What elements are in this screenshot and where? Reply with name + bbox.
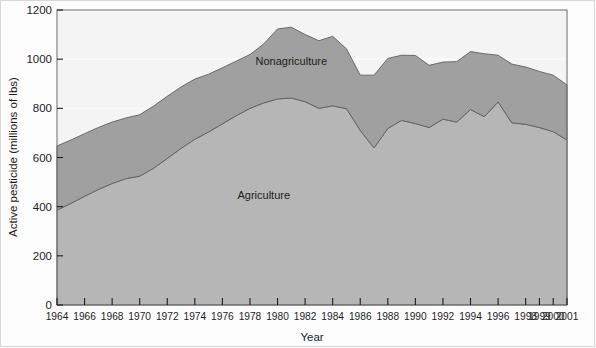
x-tick-label: 1996	[487, 311, 510, 322]
y-tick-label: 0	[46, 299, 52, 311]
x-tick-label: 1980	[266, 311, 289, 322]
y-axis-title: Active pesticide (millions of lbs)	[7, 77, 19, 237]
x-tick-label: 1974	[184, 311, 207, 322]
y-tick-label: 800	[33, 102, 52, 114]
x-tick-label: 1990	[404, 311, 427, 322]
x-tick-label: 1992	[432, 311, 455, 322]
x-tick-label: 1988	[376, 311, 399, 322]
x-axis-title: Year	[300, 331, 323, 343]
x-tick-label: 1986	[349, 311, 372, 322]
stacked-area-chart: 020040060080010001200 196419661968197019…	[0, 0, 596, 348]
nonagriculture-series-label: Nonagriculture	[256, 55, 328, 67]
agriculture-series-label: Agriculture	[237, 189, 290, 201]
y-tick-label: 200	[33, 250, 52, 262]
x-tick-label: 1966	[73, 311, 96, 322]
y-tick-label: 1000	[26, 53, 52, 65]
x-tick-label: 1964	[46, 311, 69, 322]
x-tick-label: 1994	[459, 311, 482, 322]
y-tick-label: 600	[33, 152, 52, 164]
x-tick-label: 1982	[294, 311, 317, 322]
x-tick-label: 1972	[156, 311, 179, 322]
x-tick-label: 1984	[321, 311, 344, 322]
x-tick-label: 1968	[101, 311, 124, 322]
x-tick-label: 1976	[211, 311, 234, 322]
x-tick-label: 2001	[556, 311, 579, 322]
chart-figure: 020040060080010001200 196419661968197019…	[0, 0, 596, 348]
y-tick-label: 400	[33, 201, 52, 213]
y-tick-label: 1200	[26, 4, 52, 16]
x-tick-label: 1970	[128, 311, 151, 322]
x-tick-label: 1978	[239, 311, 262, 322]
